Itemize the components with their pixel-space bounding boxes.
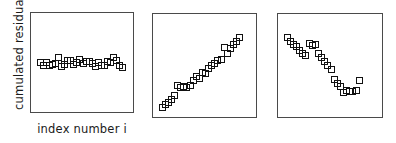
scatter-panel-increasing bbox=[152, 13, 257, 118]
data-point-marker bbox=[328, 66, 335, 73]
data-point-marker bbox=[312, 41, 319, 48]
x-axis-label: index number i bbox=[24, 122, 140, 136]
data-point-marker bbox=[171, 92, 178, 99]
residual-plot-figure: cumulated residuals index number i bbox=[0, 0, 396, 143]
data-point-marker bbox=[356, 77, 363, 84]
data-point-marker bbox=[119, 64, 126, 71]
data-point-marker bbox=[236, 34, 243, 41]
data-point-marker bbox=[353, 87, 360, 94]
data-point-marker bbox=[218, 56, 225, 63]
scatter-panel-decreasing bbox=[277, 13, 383, 118]
y-axis-label: cumulated residuals bbox=[12, 0, 26, 110]
scatter-panel-random bbox=[30, 12, 134, 113]
data-point-marker bbox=[302, 52, 309, 59]
